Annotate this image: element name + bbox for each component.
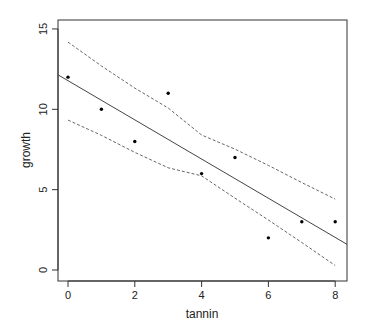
- x-tick-label: 8: [332, 289, 338, 301]
- x-tick-label: 4: [199, 289, 205, 301]
- y-tick-label: 0: [37, 267, 49, 273]
- data-point: [167, 92, 170, 95]
- data-point: [334, 220, 337, 223]
- confidence-bands: [68, 42, 335, 265]
- plot-frame: [58, 20, 347, 281]
- fit-line: [58, 75, 347, 245]
- y-tick-label: 5: [37, 187, 49, 193]
- scatter-chart: 02468 051015 tannin growth: [0, 0, 366, 328]
- data-point: [66, 75, 69, 78]
- data-point: [133, 140, 136, 143]
- x-tick-label: 0: [65, 289, 71, 301]
- x-axis: 02468: [65, 281, 338, 301]
- y-tick-label: 10: [37, 103, 49, 115]
- data-point: [200, 172, 203, 175]
- data-point: [100, 108, 103, 111]
- x-tick-label: 2: [132, 289, 138, 301]
- y-axis: 051015: [37, 23, 58, 273]
- regression-line: [58, 75, 347, 245]
- data-point: [300, 220, 303, 223]
- lower-confidence-band: [68, 120, 335, 265]
- data-point: [233, 156, 236, 159]
- y-tick-label: 15: [37, 23, 49, 35]
- x-axis-label: tannin: [186, 307, 219, 321]
- data-point: [267, 236, 270, 239]
- x-tick-label: 6: [265, 289, 271, 301]
- y-axis-label: growth: [19, 132, 33, 168]
